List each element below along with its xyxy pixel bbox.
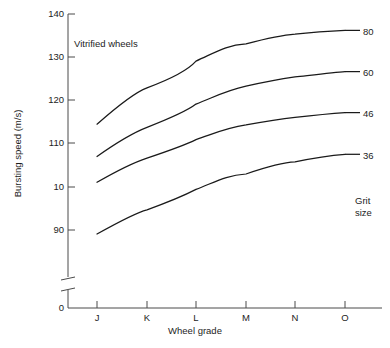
chart-series-curves xyxy=(97,30,345,234)
y-axis-title: Bursting speed (m/s) xyxy=(12,89,23,219)
x-tick-label-O: O xyxy=(331,313,359,323)
series-leader-lines xyxy=(345,30,360,154)
x-axis-title: Wheel grade xyxy=(0,325,390,336)
y-axis-break-mark-upper xyxy=(61,277,75,280)
x-tick-label-N: N xyxy=(281,313,309,323)
y-tick-label-140: 140 xyxy=(26,9,64,19)
legend-caption-line-1: Grit xyxy=(355,195,372,207)
x-tick-label-L: L xyxy=(182,313,210,323)
legend-caption-line-2: size xyxy=(355,207,372,219)
series-label-60: 60 xyxy=(363,67,374,78)
legend-caption-grit-size: Grit size xyxy=(355,195,372,218)
y-tick-label-0: 0 xyxy=(26,303,64,313)
x-tick-label-J: J xyxy=(83,313,111,323)
series-curve-60 xyxy=(97,72,345,157)
y-tick-label-130: 130 xyxy=(26,52,64,62)
x-axis-ticks xyxy=(97,301,345,308)
x-tick-label-M: M xyxy=(232,313,260,323)
plot-annotation-vitrified-wheels: Vitrified wheels xyxy=(74,38,138,49)
chart-figure: 140 130 120 110 10 90 0 J K L M N O Burs… xyxy=(0,0,390,348)
y-tick-label-100: 10 xyxy=(26,182,64,192)
y-tick-label-90: 90 xyxy=(26,225,64,235)
series-label-36: 36 xyxy=(363,150,374,161)
series-curve-36 xyxy=(97,154,345,234)
y-tick-label-120: 120 xyxy=(26,95,64,105)
series-curve-46 xyxy=(97,113,345,183)
series-label-80: 80 xyxy=(363,26,374,37)
x-tick-label-K: K xyxy=(133,313,161,323)
series-label-46: 46 xyxy=(363,108,374,119)
y-tick-label-110: 110 xyxy=(26,138,64,148)
